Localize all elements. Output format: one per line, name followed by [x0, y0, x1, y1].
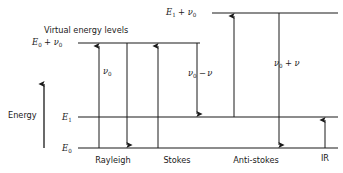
energy-axis-label: Energy	[8, 110, 37, 120]
process-label-anti-stokes: Anti-stokes	[233, 155, 278, 165]
transition-group-anti-stokes	[234, 13, 279, 145]
transition-group-stokes	[158, 43, 197, 148]
process-label-rayleigh: Rayleigh	[95, 155, 130, 165]
level-label-E0: E0	[61, 143, 72, 154]
level-label-E1: E1	[61, 112, 72, 123]
figure-canvas: E1+ν0 E0+ν0 E1 E0 Virtual energy levels …	[0, 0, 343, 173]
transition-group-rayleigh	[99, 43, 127, 148]
virtual-energy-levels-note: Virtual energy levels	[44, 25, 128, 35]
transition-label-nu0: ν0	[103, 66, 112, 77]
level-label-E1-plus-nu0: E1+ν0	[165, 7, 197, 18]
process-label-ir: IR	[321, 153, 329, 163]
transition-label-nu0-minus-nu: ν0−ν	[188, 68, 212, 79]
level-label-E0-plus-nu0: E0+ν0	[31, 37, 63, 48]
transition-label-nu0-plus-nu: ν0+ν	[274, 58, 300, 69]
process-label-stokes: Stokes	[163, 155, 190, 165]
energy-level-diagram: E1+ν0 E0+ν0 E1 E0 Virtual energy levels …	[0, 0, 343, 173]
